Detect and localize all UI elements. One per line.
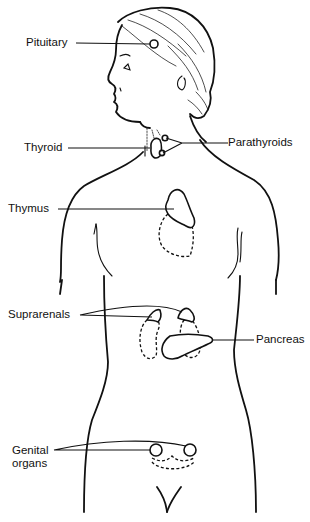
leader-parathyroids: [163, 138, 228, 153]
kidney-left-dashed: [140, 319, 159, 359]
label-thyroid: Thyroid: [24, 141, 62, 154]
head-outline: [108, 8, 214, 142]
label-pancreas: Pancreas: [256, 333, 305, 346]
label-pituitary: Pituitary: [26, 36, 68, 49]
label-suprarenals: Suprarenals: [8, 308, 70, 321]
uterus-dashed-lower: [152, 462, 194, 469]
genital-organs: [150, 444, 196, 469]
label-parathyroids: Parathyroids: [228, 136, 293, 149]
pituitary-gland: [150, 40, 158, 48]
leader-genital-organs: [54, 441, 186, 450]
endocrine-diagram: Pituitary Thyroid Parathyroids Thymus Su…: [0, 0, 310, 522]
leader-pituitary: [76, 43, 150, 44]
leader-lines: [54, 43, 254, 450]
label-thymus: Thymus: [8, 202, 49, 215]
uterus-dashed-upper: [152, 456, 194, 461]
thymus-gland: [159, 190, 194, 257]
label-genital-organs: Genital organs: [12, 444, 48, 470]
pancreas-gland: [162, 335, 213, 360]
leader-suprarenals: [80, 306, 182, 317]
